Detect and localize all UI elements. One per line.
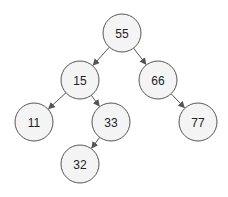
edge-arrow-55-to-15 xyxy=(93,47,109,65)
node-label: 33 xyxy=(104,116,118,130)
tree-node-66: 66 xyxy=(139,61,177,99)
tree-node-32: 32 xyxy=(61,145,99,183)
node-label: 15 xyxy=(73,74,87,88)
nodes-layer: 55156611337732 xyxy=(15,14,217,183)
binary-tree-diagram: 55156611337732 xyxy=(0,0,228,197)
node-label: 11 xyxy=(28,116,41,130)
edge-arrow-15-to-33 xyxy=(91,95,99,106)
tree-node-77: 77 xyxy=(179,103,217,141)
node-label: 77 xyxy=(191,116,205,130)
node-label: 55 xyxy=(115,27,129,41)
edge-arrow-55-to-66 xyxy=(134,48,146,64)
tree-node-15: 15 xyxy=(61,61,99,99)
node-label: 32 xyxy=(73,158,87,172)
node-label: 66 xyxy=(151,74,165,88)
tree-node-55: 55 xyxy=(103,14,141,52)
edge-arrow-15-to-11 xyxy=(49,93,66,109)
edge-arrow-33-to-32 xyxy=(92,137,100,148)
edge-arrow-66-to-77 xyxy=(171,94,184,108)
tree-node-33: 33 xyxy=(92,103,130,141)
tree-node-11: 11 xyxy=(15,103,53,141)
